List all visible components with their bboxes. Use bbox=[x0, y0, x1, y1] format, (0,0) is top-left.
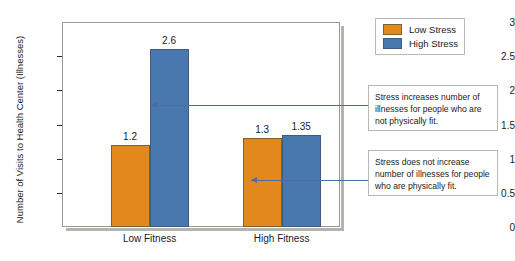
y-tick-label: 0 bbox=[469, 222, 515, 233]
plot-shadow-right bbox=[341, 26, 344, 230]
bar-value-label: 1.2 bbox=[123, 131, 137, 142]
x-category-label: High Fitness bbox=[254, 233, 310, 244]
callout-box-2: Stress does not increase number of illne… bbox=[368, 150, 498, 196]
callout-box-1: Stress increases number of illnesses for… bbox=[368, 85, 498, 131]
legend-swatch-low-stress-icon bbox=[383, 24, 402, 35]
y-tick-label: 2.5 bbox=[469, 51, 515, 62]
chart-legend: Low Stress High Stress bbox=[375, 18, 465, 55]
bar-value-label: 1.35 bbox=[291, 121, 310, 132]
chart-figure: Number of Visits to Health Center (Illne… bbox=[0, 0, 515, 261]
bar-low-fitness-high-stress bbox=[150, 49, 189, 227]
callout-text-2: Stress does not increase number of illne… bbox=[375, 156, 491, 193]
bar-value-label: 2.6 bbox=[162, 35, 176, 46]
y-tick-label: 3 bbox=[469, 17, 515, 28]
bar-value-label: 1.3 bbox=[255, 124, 269, 135]
legend-label-low-stress: Low Stress bbox=[409, 24, 456, 35]
callout-text-1: Stress increases number of illnesses for… bbox=[375, 91, 491, 128]
callout-1-arrow-head bbox=[151, 102, 157, 108]
callout-2-arrow-head bbox=[251, 177, 257, 183]
bar-high-fitness-low-stress bbox=[243, 138, 282, 227]
legend-label-high-stress: High Stress bbox=[409, 38, 458, 49]
callout-2-arrow-line bbox=[251, 180, 368, 181]
legend-swatch-high-stress-icon bbox=[383, 38, 402, 49]
legend-item-high-stress: High Stress bbox=[383, 38, 457, 49]
plot-shadow-bottom bbox=[66, 228, 344, 231]
bar-low-fitness-low-stress bbox=[111, 145, 150, 227]
y-axis-title: Number of Visits to Health Center (Illne… bbox=[14, 25, 25, 235]
callout-1-arrow-line bbox=[151, 105, 368, 106]
legend-item-low-stress: Low Stress bbox=[383, 24, 457, 35]
x-category-label: Low Fitness bbox=[123, 233, 176, 244]
